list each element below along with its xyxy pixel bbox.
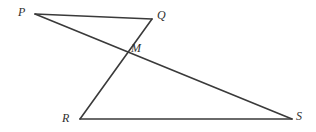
vertex-label-m: M bbox=[131, 42, 141, 54]
vertex-label-r: R bbox=[62, 112, 69, 124]
segment-pq bbox=[35, 14, 152, 19]
segment-qr bbox=[80, 19, 152, 119]
vertex-label-s: S bbox=[296, 110, 302, 122]
vertex-label-p: P bbox=[18, 6, 25, 18]
vertex-label-q: Q bbox=[157, 9, 166, 21]
segment-ps bbox=[35, 14, 292, 119]
geometry-diagram: P Q M R S bbox=[0, 0, 316, 132]
